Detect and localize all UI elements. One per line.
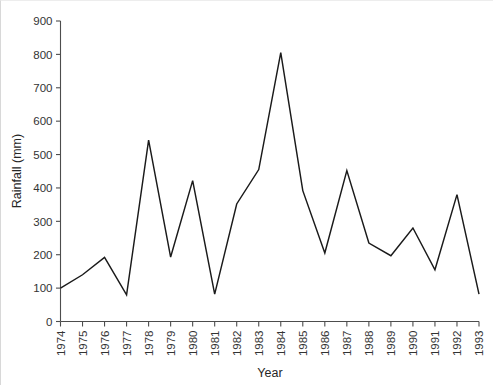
x-tick-label: 1990 — [407, 331, 419, 357]
x-tick-label: 1979 — [165, 331, 177, 357]
x-tick-label: 1992 — [451, 331, 463, 357]
y-tick-label: 200 — [33, 249, 52, 261]
y-tick-label: 0 — [46, 316, 52, 328]
rainfall-line-chart: 0100200300400500600700800900 19741975197… — [1, 1, 493, 385]
x-tick-label: 1976 — [99, 331, 111, 357]
y-tick-label: 300 — [33, 216, 52, 228]
y-axis-title: Rainfall (mm) — [10, 134, 24, 208]
x-tick-label: 1984 — [275, 330, 287, 356]
y-tick-label: 400 — [33, 182, 52, 194]
x-tick-label: 1983 — [253, 331, 265, 357]
y-tick-label: 600 — [33, 115, 52, 127]
x-tick-label: 1978 — [143, 331, 155, 357]
x-tick-label: 1982 — [231, 331, 243, 357]
x-tick-label: 1991 — [429, 331, 441, 357]
x-tick-label: 1981 — [209, 331, 221, 357]
rainfall-series-line — [61, 53, 480, 295]
x-axis-title: Year — [257, 366, 282, 380]
y-tick-label: 800 — [33, 49, 52, 61]
y-axis-ticks: 0100200300400500600700800900 — [33, 15, 60, 328]
x-tick-label: 1993 — [473, 331, 485, 357]
x-tick-label: 1987 — [341, 331, 353, 357]
y-tick-label: 700 — [33, 82, 52, 94]
y-tick-label: 100 — [33, 282, 52, 294]
x-tick-label: 1985 — [297, 331, 309, 357]
chart-figure: 0100200300400500600700800900 19741975197… — [0, 0, 493, 385]
x-tick-label: 1986 — [319, 331, 331, 357]
y-tick-label: 500 — [33, 149, 52, 161]
x-tick-label: 1988 — [363, 331, 375, 357]
y-tick-label: 900 — [33, 15, 52, 27]
x-tick-label: 1989 — [385, 331, 397, 357]
x-tick-label: 1975 — [77, 331, 89, 357]
x-tick-label: 1977 — [121, 331, 133, 357]
x-tick-label: 1974 — [55, 330, 67, 356]
x-tick-label: 1980 — [187, 331, 199, 357]
x-axis-ticks: 1974197519761977197819791980198119821983… — [55, 322, 486, 357]
